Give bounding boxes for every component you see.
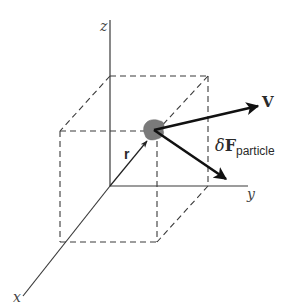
x-axis [23,186,110,296]
x-axis-label: x [13,290,21,304]
axes [23,20,248,296]
box-edge-bottom-right-diag [157,186,208,242]
box-edge-top-left-diag [60,76,110,131]
force-label: δFparticle [215,138,275,154]
z-axis-label: z [100,19,107,33]
particle-blob [144,120,164,140]
position-vector-label: r [124,147,129,161]
y-axis-label: y [247,187,255,201]
force-subscript: particle [236,144,275,158]
dashed-box [60,76,208,242]
force-symbol: F [225,136,236,155]
force-delta-symbol: δ [215,136,225,155]
velocity-label: V [262,95,274,110]
velocity-vector [154,106,258,130]
